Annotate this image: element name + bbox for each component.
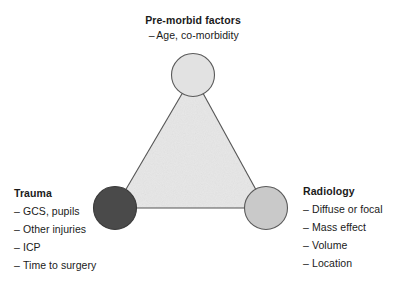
trauma-title: Trauma [14, 187, 96, 199]
bullet-dash-icon: – [147, 27, 156, 43]
list-item-label: Time to surgery [23, 259, 96, 271]
list-item-label: Volume [312, 239, 347, 251]
list-item: –GCS, pupils [14, 202, 96, 220]
bullet-dash-icon: – [14, 220, 23, 238]
node-premorbid-circle [172, 54, 215, 97]
list-item-label: Other injuries [23, 223, 86, 235]
node-label-premorbid: Pre-morbid factors –Age, co-morbidity [99, 13, 287, 43]
list-item-label: Diffuse or focal [312, 203, 383, 215]
bullet-dash-icon: – [14, 202, 23, 220]
list-item-label: Age, co-morbidity [156, 29, 239, 41]
bullet-dash-icon: – [303, 254, 312, 272]
list-item: –Location [303, 254, 383, 272]
node-label-radiology: Radiology –Diffuse or focal –Mass effect… [303, 185, 383, 272]
list-item: –Volume [303, 236, 383, 254]
list-item: –Age, co-morbidity [99, 27, 287, 43]
bullet-dash-icon: – [303, 218, 312, 236]
list-item-label: Location [312, 257, 352, 269]
list-item: –Other injuries [14, 220, 96, 238]
list-item-label: Mass effect [312, 221, 366, 233]
list-item-label: ICP [23, 241, 41, 253]
bullet-dash-icon: – [303, 200, 312, 218]
node-label-trauma: Trauma –GCS, pupils –Other injuries –ICP… [14, 187, 96, 274]
bullet-dash-icon: – [14, 256, 23, 274]
node-trauma-circle [94, 187, 137, 230]
list-item: –Mass effect [303, 218, 383, 236]
trauma-item-list: –GCS, pupils –Other injuries –ICP –Time … [14, 202, 96, 274]
list-item: –Diffuse or focal [303, 200, 383, 218]
list-item: –ICP [14, 238, 96, 256]
radiology-item-list: –Diffuse or focal –Mass effect –Volume –… [303, 200, 383, 272]
diagram-figure: Pre-morbid factors –Age, co-morbidity Tr… [0, 0, 397, 286]
bullet-dash-icon: – [303, 236, 312, 254]
premorbid-item-list: –Age, co-morbidity [99, 27, 287, 43]
node-radiology-circle [245, 187, 288, 230]
list-item-label: GCS, pupils [23, 205, 80, 217]
radiology-title: Radiology [303, 185, 383, 197]
bullet-dash-icon: – [14, 238, 23, 256]
list-item: –Time to surgery [14, 256, 96, 274]
premorbid-title: Pre-morbid factors [99, 13, 287, 27]
